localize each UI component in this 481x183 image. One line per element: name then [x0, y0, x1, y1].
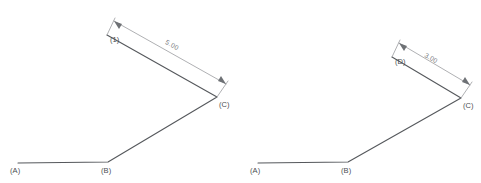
right-label-d: (D) — [395, 57, 406, 66]
left-arrowhead-end — [218, 76, 226, 84]
right-figure: 3.00 (A) (B) (C) (D) — [250, 40, 474, 175]
right-arrowhead-start — [399, 43, 407, 51]
left-label-b: (B) — [101, 166, 112, 175]
right-arrowhead-end — [462, 77, 470, 85]
left-label-c: (C) — [219, 100, 230, 109]
right-label-c: (C) — [463, 101, 474, 110]
left-dimension-value: 5.00 — [164, 38, 180, 51]
left-label-a: (A) — [10, 166, 21, 175]
left-dimension-line — [114, 21, 226, 84]
right-label-b: (B) — [341, 166, 352, 175]
left-polyline — [18, 35, 217, 163]
right-label-a: (A) — [250, 166, 261, 175]
left-figure: 5.00 (A) (B) (C) (1) — [10, 18, 230, 175]
right-polyline — [258, 57, 461, 163]
left-extension-line-end — [217, 81, 228, 97]
technical-drawing: 5.00 (A) (B) (C) (1) 3.00 (A) — [0, 0, 481, 183]
left-extension-line-start — [107, 18, 115, 35]
drawing-canvas: 5.00 (A) (B) (C) (1) 3.00 (A) — [0, 0, 481, 183]
right-extension-line-end — [461, 82, 472, 98]
left-arrowhead-start — [114, 21, 122, 29]
right-dimension-line — [399, 43, 470, 85]
left-label-1: (1) — [110, 35, 120, 44]
right-extension-line-start — [392, 40, 400, 57]
